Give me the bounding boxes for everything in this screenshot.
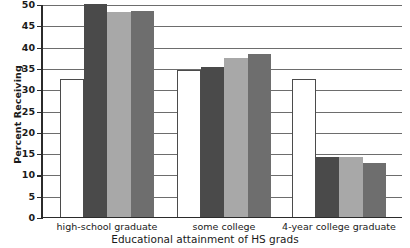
y-tick-label-45: 45 xyxy=(22,22,35,32)
bar-1-series-4 xyxy=(131,11,155,218)
bar-3-series-2 xyxy=(316,157,340,218)
bar-3-series-3 xyxy=(339,157,363,218)
gridline-0 xyxy=(42,218,402,219)
y-tick-label-20: 20 xyxy=(22,128,35,138)
category-label-3: 4-year college graduate xyxy=(259,221,410,232)
y-tick-label-30: 30 xyxy=(22,85,35,95)
x-axis-title: Educational attainment of HS grads xyxy=(0,233,410,245)
y-tick-label-35: 35 xyxy=(22,64,35,74)
y-tick-label-10: 10 xyxy=(22,171,35,181)
y-tick-label-15: 15 xyxy=(22,149,35,159)
bar-3-series-4 xyxy=(363,163,387,218)
y-tick-label-40: 40 xyxy=(22,43,35,53)
plot-area: 50454035302520151050 xyxy=(42,5,402,218)
x-axis-line xyxy=(41,217,402,218)
bars-group xyxy=(42,5,402,218)
bar-chart: Percent Receiving 50454035302520151050 h… xyxy=(0,0,410,248)
bar-1-series-3 xyxy=(107,12,131,218)
bar-2-series-3 xyxy=(224,58,248,218)
y-axis-line xyxy=(41,5,43,219)
bar-1-series-1 xyxy=(60,79,84,218)
y-tick-label-50: 50 xyxy=(22,0,35,10)
y-tick-label-25: 25 xyxy=(22,107,35,117)
bar-2-series-2 xyxy=(201,67,225,218)
y-tick-label-5: 5 xyxy=(28,192,35,202)
bar-2-series-1 xyxy=(177,70,201,218)
bar-3-series-1 xyxy=(292,79,316,218)
bar-1-series-2 xyxy=(84,4,108,218)
bar-2-series-4 xyxy=(248,54,272,218)
